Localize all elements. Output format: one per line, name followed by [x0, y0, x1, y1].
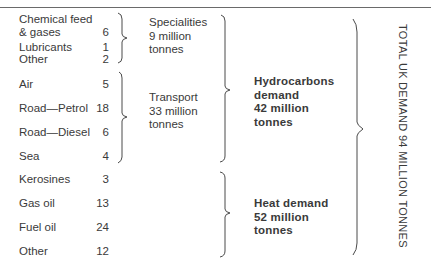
brace-total-icon — [353, 19, 363, 255]
braces-layer — [0, 0, 431, 272]
brace-transport-icon — [118, 72, 127, 163]
brace-heat-icon — [220, 172, 230, 257]
brace-hydrocarbons-icon — [220, 15, 230, 162]
brace-specialities-icon — [118, 13, 127, 63]
